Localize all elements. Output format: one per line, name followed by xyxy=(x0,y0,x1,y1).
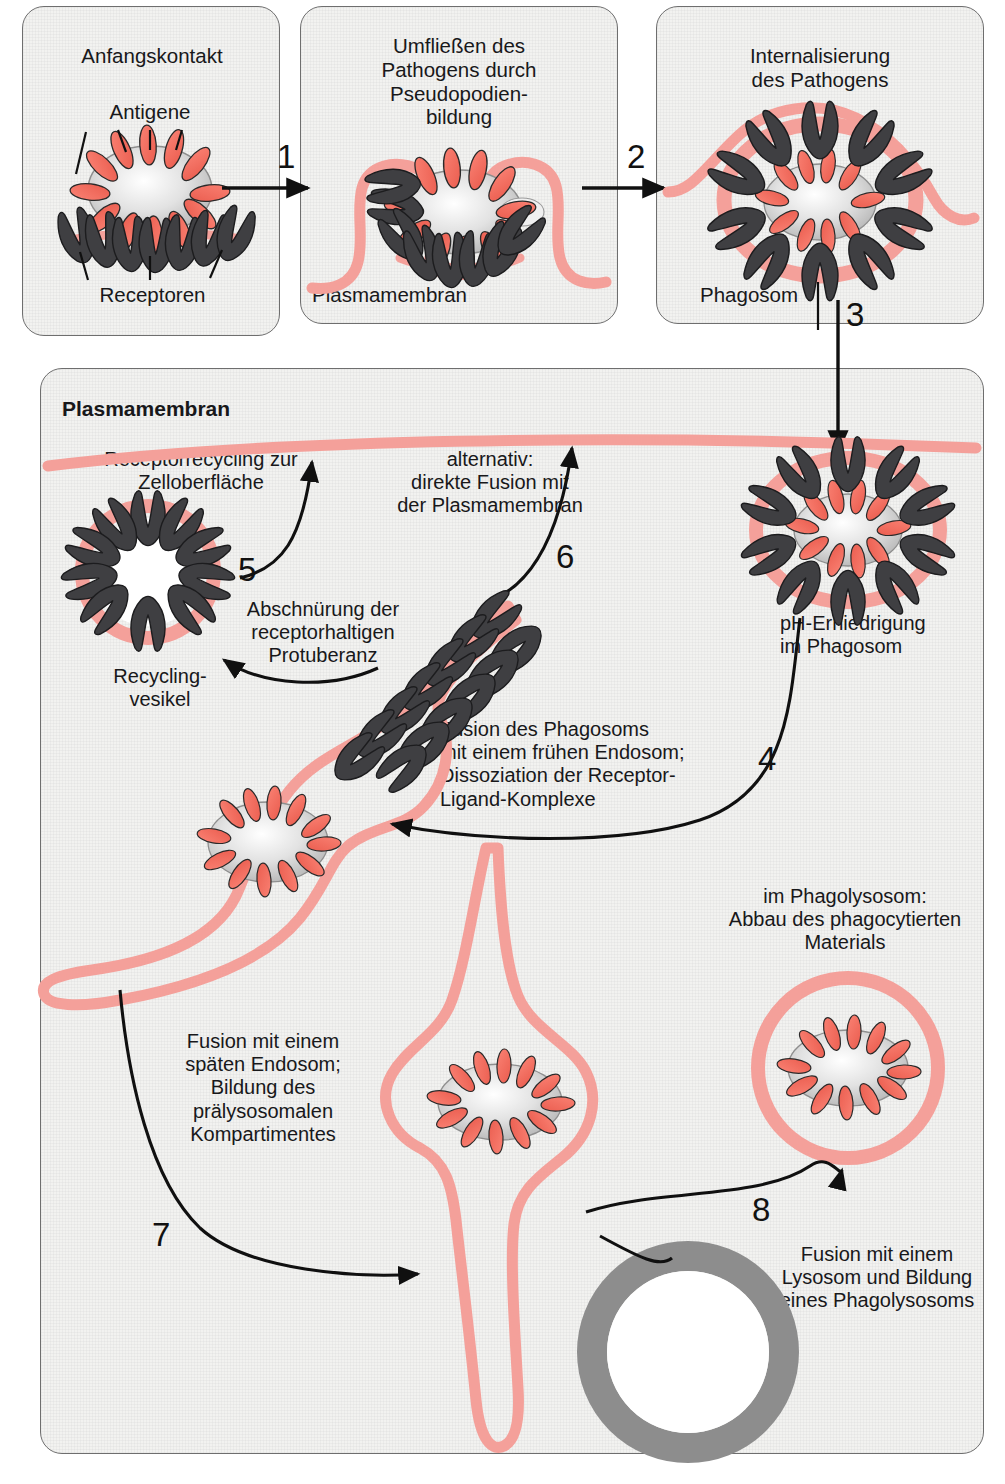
label-receptorrecycling: Receptorrecycling zur Zelloberfläche xyxy=(56,448,346,494)
label-alternativ: alternativ: direkte Fusion mit der Plasm… xyxy=(356,448,624,518)
label-fusion-phagosom: Fusion des Phagosoms mit einem frühen En… xyxy=(440,718,770,811)
label-recycling-vesikel: Recycling- vesikel xyxy=(90,665,230,711)
label-ph-erniedrigung: pH-Erniedrigung im Phagosom xyxy=(780,612,1000,658)
label-fusion-lysosom: Fusion mit einem Lysosom und Bildung ein… xyxy=(758,1243,996,1313)
label-pathogen: Pathogen xyxy=(60,169,240,193)
label-abschnuerung: Abschnürung der receptorhaltigen Protube… xyxy=(208,598,438,668)
phagocytosis-diagram: Anfangskontakt Antigene Pathogen Recepto… xyxy=(0,0,1005,1484)
step-number-8: 8 xyxy=(752,1193,770,1226)
step-number-4: 4 xyxy=(758,742,776,775)
main-title-plasmamembran: Plasmamembran xyxy=(62,397,402,421)
panel2-title: Umfließen des Pathogens durch Pseudopodi… xyxy=(320,34,598,129)
panel1-title: Anfangskontakt xyxy=(42,44,262,68)
step-number-7: 7 xyxy=(152,1218,170,1251)
label-plasmamembran-p2: Plasmamembran xyxy=(312,283,552,307)
label-lysosom: Lysosom xyxy=(596,1324,776,1358)
step-number-3: 3 xyxy=(846,298,864,331)
label-receptoren: Receptoren xyxy=(55,283,250,307)
label-antigene: Antigene xyxy=(60,100,240,124)
label-im-phagolysosom: im Phagolysosom: Abbau des phagocytierte… xyxy=(700,885,990,955)
label-fusion-spaeten-endosom: Fusion mit einem späten Endosom; Bildung… xyxy=(150,1030,376,1146)
step-number-2: 2 xyxy=(627,140,645,173)
step-number-5: 5 xyxy=(238,553,256,586)
panel3-title: Internalisierung des Pathogens xyxy=(672,44,968,92)
step-number-6: 6 xyxy=(556,540,574,573)
step-number-1: 1 xyxy=(277,140,295,173)
